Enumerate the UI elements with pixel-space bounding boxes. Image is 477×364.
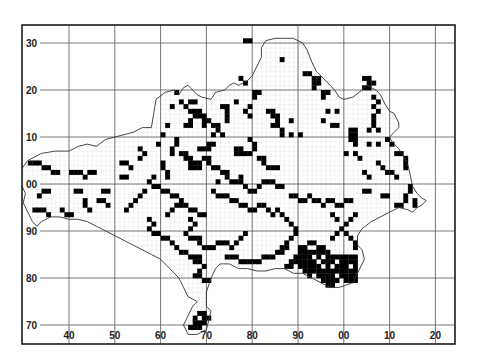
occupied-cell [326,198,331,203]
occupied-cell [344,269,349,274]
occupied-cell [202,146,207,151]
occupied-cell [64,212,69,217]
occupied-cell [330,273,335,278]
occupied-cell [312,85,317,90]
occupied-cell [202,156,207,161]
occupied-cell [156,231,161,236]
occupied-cell [321,269,326,274]
occupied-cell [312,81,317,86]
occupied-cell [211,189,216,194]
occupied-cell [101,198,106,203]
occupied-cell [133,198,138,203]
occupied-cell [193,165,198,170]
occupied-cell [326,259,331,264]
occupied-cell [348,217,353,222]
occupied-cell [74,170,79,175]
occupied-cell [348,132,353,137]
occupied-cell [353,132,358,137]
occupied-cell [403,198,408,203]
occupied-cell [390,170,395,175]
occupied-cell [312,198,317,203]
occupied-cell [124,161,129,166]
occupied-cell [179,198,184,203]
occupied-cell [188,325,193,330]
occupied-cell [293,226,298,231]
occupied-cell [220,240,225,245]
occupied-cell [330,123,335,128]
occupied-cell [266,109,271,114]
occupied-cell [202,311,207,316]
occupied-cell [353,151,358,156]
occupied-cell [234,198,239,203]
occupied-cell [326,264,331,269]
occupied-cell [344,222,349,227]
occupied-cell [188,236,193,241]
occupied-cell [106,203,111,208]
occupied-cell [243,231,248,236]
occupied-cell [239,179,244,184]
occupied-cell [252,146,257,151]
occupied-cell [206,146,211,151]
occupied-cell [32,161,37,166]
occupied-cell [293,259,298,264]
occupied-cell [284,245,289,250]
occupied-cell [376,142,381,147]
occupied-cell [243,38,248,43]
occupied-cell [216,165,221,170]
occupied-cell [197,311,202,316]
occupied-cell [225,193,230,198]
occupied-cell [193,114,198,119]
occupied-cell [312,250,317,255]
occupied-cell [161,132,166,137]
occupied-cell [348,269,353,274]
occupied-cell [275,250,280,255]
occupied-cell [179,250,184,255]
occupied-cell [321,118,326,123]
occupied-cell [83,203,88,208]
occupied-cell [193,161,198,166]
occupied-cell [353,212,358,217]
occupied-cell [298,255,303,260]
occupied-cell [211,132,216,137]
occupied-cell [179,99,184,104]
occupied-cell [142,151,147,156]
occupied-cell [275,184,280,189]
occupied-cell [280,57,285,62]
occupied-cell [326,250,331,255]
y-tick-label: 90 [26,226,38,237]
occupied-cell [358,156,363,161]
occupied-cell [188,161,193,166]
occupied-cell [193,255,198,260]
occupied-cell [367,175,372,180]
occupied-cell [165,170,170,175]
occupied-cell [316,76,321,81]
occupied-cell [193,320,198,325]
occupied-cell [197,212,202,217]
occupied-cell [307,264,312,269]
occupied-cell [234,151,239,156]
occupied-cell [321,250,326,255]
occupied-cell [147,226,152,231]
occupied-cell [289,118,294,123]
occupied-cell [87,170,92,175]
occupied-cell [280,128,285,133]
occupied-cell [344,273,349,278]
occupied-cell [348,137,353,142]
occupied-cell [380,193,385,198]
occupied-cell [170,104,175,109]
occupied-cell [348,128,353,133]
occupied-cell [165,236,170,241]
occupied-cell [165,175,170,180]
occupied-cell [78,189,83,194]
occupied-cell [184,104,189,109]
occupied-cell [197,114,202,119]
occupied-cell [161,161,166,166]
occupied-cell [151,222,156,227]
occupied-cell [371,104,376,109]
occupied-cell [161,165,166,170]
occupied-cell [69,212,74,217]
occupied-cell [257,156,262,161]
occupied-cell [188,118,193,123]
occupied-cell [413,198,418,203]
x-tick-label: 60 [155,330,167,341]
